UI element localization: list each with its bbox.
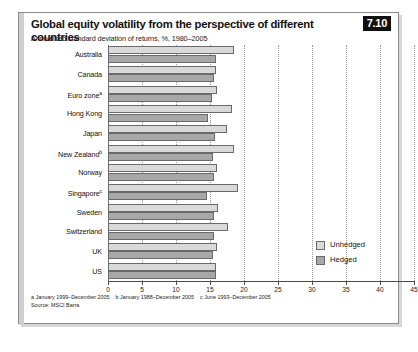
bar-unhedged	[108, 86, 217, 94]
bar-row	[108, 222, 414, 242]
tick-mark-35	[346, 282, 347, 285]
bar-row	[108, 143, 414, 163]
x-tick-label-10: 10	[172, 286, 179, 293]
left-accent-bar	[19, 13, 24, 325]
bar-unhedged	[108, 46, 234, 54]
category-label-norway: Norway	[78, 168, 102, 177]
bar-unhedged	[108, 263, 216, 271]
tick-mark-30	[312, 282, 313, 285]
legend-label-unhedged: Unhedged	[330, 240, 365, 249]
bar-row	[108, 202, 414, 222]
bar-hedged	[108, 74, 214, 82]
source-note: Source: MSCI Barra	[31, 302, 79, 308]
bar-row	[108, 84, 414, 104]
tick-mark-15	[210, 282, 211, 285]
x-tick-label-5: 5	[140, 286, 144, 293]
bar-unhedged	[108, 145, 234, 153]
legend-swatch-unhedged	[316, 241, 325, 250]
category-label-japan: Japan	[83, 129, 102, 138]
category-label-australia: Australia	[75, 50, 102, 59]
bar-hedged	[108, 251, 213, 259]
gridline-45	[414, 45, 415, 281]
bar-hedged	[108, 133, 215, 141]
bar-hedged	[108, 212, 214, 220]
bar-hedged	[108, 192, 207, 200]
bar-hedged	[108, 173, 214, 181]
category-label-switzerland: Switzerland	[66, 227, 102, 236]
x-tick-label-30: 30	[308, 286, 315, 293]
x-tick-label-25: 25	[274, 286, 281, 293]
bar-unhedged	[108, 204, 218, 212]
bar-unhedged	[108, 164, 217, 172]
tick-mark-20	[244, 282, 245, 285]
bar-row	[108, 242, 414, 262]
footnote-1: a January 1999–December 2005	[31, 294, 110, 300]
figure-number-badge: 7.10	[363, 16, 391, 31]
bar-unhedged	[108, 243, 217, 251]
tick-mark-10	[176, 282, 177, 285]
x-tick-label-35: 35	[342, 286, 349, 293]
category-label-us: US	[92, 267, 102, 276]
bar-row	[108, 45, 414, 65]
category-label-new-zealand: New Zealandb	[58, 149, 102, 159]
bar-unhedged	[108, 105, 232, 113]
bar-unhedged	[108, 66, 216, 74]
chart-subtitle: Annualised standard deviation of returns…	[31, 34, 361, 43]
bar-row	[108, 163, 414, 183]
footnotes: a January 1999–December 2005b January 19…	[31, 294, 381, 302]
tick-mark-0	[108, 282, 109, 285]
bar-unhedged	[108, 125, 227, 133]
tick-mark-40	[380, 282, 381, 285]
bar-hedged	[108, 94, 212, 102]
bar-hedged	[108, 271, 216, 279]
x-tick-label-20: 20	[240, 286, 247, 293]
x-tick-label-0: 0	[106, 286, 110, 293]
bar-row	[108, 104, 414, 124]
bar-row	[108, 65, 414, 85]
bar-hedged	[108, 232, 214, 240]
bar-row	[108, 261, 414, 281]
tick-mark-5	[142, 282, 143, 285]
category-label-sweden: Sweden	[77, 208, 102, 217]
category-label-euro-zone: Euro zonea	[67, 90, 102, 100]
x-axis-line	[108, 281, 415, 282]
x-tick-label-15: 15	[206, 286, 213, 293]
category-label-canada: Canada	[77, 70, 102, 79]
x-tick-label-45: 45	[410, 286, 417, 293]
footnote-3: c June 1993–December 2005	[200, 294, 271, 300]
tick-mark-25	[278, 282, 279, 285]
category-label-singapore: Singaporec	[68, 188, 102, 198]
legend-swatch-hedged	[316, 256, 325, 265]
tick-mark-45	[414, 282, 415, 285]
x-tick-label-40: 40	[376, 286, 383, 293]
bar-hedged	[108, 153, 213, 161]
category-label-hong-kong: Hong Kong	[67, 109, 102, 118]
chart-plate: Global equity volatility from the perspe…	[18, 12, 399, 324]
bar-unhedged	[108, 184, 238, 192]
plot-area	[108, 45, 414, 281]
bar-hedged	[108, 55, 216, 63]
legend-label-hedged: Hedged	[330, 255, 357, 264]
category-label-uk: UK	[92, 247, 102, 256]
footnote-2: b January 1988–December 2005	[116, 294, 195, 300]
bar-unhedged	[108, 223, 228, 231]
bar-row	[108, 124, 414, 144]
bar-hedged	[108, 114, 208, 122]
bar-row	[108, 183, 414, 203]
